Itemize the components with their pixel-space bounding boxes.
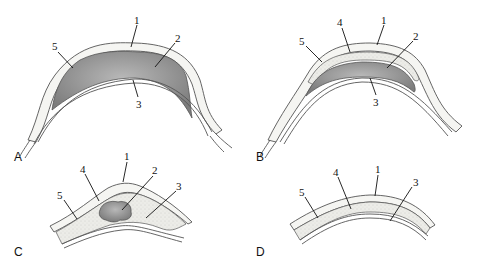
callout-3: 3 <box>136 98 142 110</box>
panel-label-c: C <box>14 245 23 259</box>
callout-2: 2 <box>413 30 419 42</box>
callout-2: 2 <box>175 32 181 44</box>
callout-3: 3 <box>176 180 182 192</box>
callout-1: 1 <box>375 163 381 175</box>
callout-3: 3 <box>413 176 419 188</box>
callout-5: 5 <box>299 35 305 47</box>
panel-c: 1 2 3 4 5 C <box>14 150 192 259</box>
panel-b: 1 4 2 3 5 B <box>256 14 462 164</box>
panel-label-d: D <box>256 245 265 259</box>
callout-4: 4 <box>337 16 343 28</box>
callout-2: 2 <box>152 164 158 176</box>
panel-label-a: A <box>14 150 22 164</box>
panel-label-b: B <box>256 150 264 164</box>
callout-5: 5 <box>52 40 58 52</box>
diagram-canvas: 1 2 3 5 A 1 4 2 3 5 B 1 <box>0 0 477 267</box>
callout-5: 5 <box>57 189 63 201</box>
callout-1: 1 <box>124 150 130 162</box>
callout-1: 1 <box>381 14 387 26</box>
callout-3: 3 <box>373 96 379 108</box>
panel-a: 1 2 3 5 A <box>14 14 232 164</box>
callout-4: 4 <box>80 163 86 175</box>
callout-4: 4 <box>333 166 339 178</box>
callout-5: 5 <box>299 186 305 198</box>
panel-d: 1 3 4 5 D <box>256 163 435 259</box>
callout-1: 1 <box>134 14 140 26</box>
